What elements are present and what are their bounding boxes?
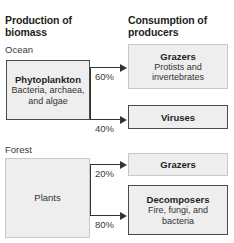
consumer-box-grazers-forest: Grazers bbox=[128, 153, 228, 176]
producer-subtitle-phytoplankton: Bacteria, archaea, and algae bbox=[10, 85, 86, 106]
flow-percent-forest-grazers: 20% bbox=[95, 169, 114, 179]
producer-title-plants: Plants bbox=[34, 193, 60, 204]
connector-shaft-ocean-grazers bbox=[90, 67, 121, 68]
energy-flow-diagram: Production of biomass Consumption of pro… bbox=[0, 0, 234, 243]
connector-shaft-ocean-viruses bbox=[90, 119, 121, 120]
connector-shaft-forest-grazers bbox=[90, 164, 121, 165]
consumer-box-decomposers: Decomposers Fire, fungi, and bacteria bbox=[128, 185, 228, 235]
producer-box-plants: Plants bbox=[5, 158, 90, 238]
consumer-title-grazers-forest: Grazers bbox=[160, 159, 195, 170]
column-heading-production: Production of biomass bbox=[5, 15, 115, 38]
arrow-head-forest-decomposers bbox=[120, 212, 127, 220]
column-heading-consumption: Consumption of producers bbox=[128, 15, 232, 38]
consumer-title-decomposers: Decomposers bbox=[147, 194, 210, 205]
producer-box-phytoplankton: Phytoplankton Bacteria, archaea, and alg… bbox=[6, 60, 90, 120]
habitat-label-ocean: Ocean bbox=[5, 45, 33, 55]
flow-percent-forest-decomposers: 80% bbox=[95, 220, 114, 230]
flow-percent-ocean-viruses: 40% bbox=[95, 124, 114, 134]
consumer-title-viruses: Viruses bbox=[161, 112, 195, 123]
consumer-subtitle-decomposers: Fire, fungi, and bacteria bbox=[132, 205, 224, 226]
producer-title-phytoplankton: Phytoplankton bbox=[15, 74, 81, 85]
arrow-head-ocean-viruses bbox=[120, 116, 127, 124]
arrow-head-forest-grazers bbox=[120, 161, 127, 169]
consumer-box-grazers-ocean: Grazers Protists and invertebrates bbox=[128, 44, 228, 89]
habitat-label-forest: Forest bbox=[5, 145, 32, 155]
flow-percent-ocean-grazers: 60% bbox=[95, 72, 114, 82]
consumer-subtitle-grazers-ocean: Protists and invertebrates bbox=[132, 62, 224, 83]
connector-spine-ocean bbox=[90, 67, 91, 120]
consumer-title-grazers-ocean: Grazers bbox=[160, 51, 195, 62]
connector-spine-forest bbox=[90, 164, 91, 216]
consumer-box-viruses: Viruses bbox=[128, 105, 228, 129]
arrow-head-ocean-grazers bbox=[120, 64, 127, 72]
connector-shaft-forest-decomposers bbox=[90, 215, 121, 216]
